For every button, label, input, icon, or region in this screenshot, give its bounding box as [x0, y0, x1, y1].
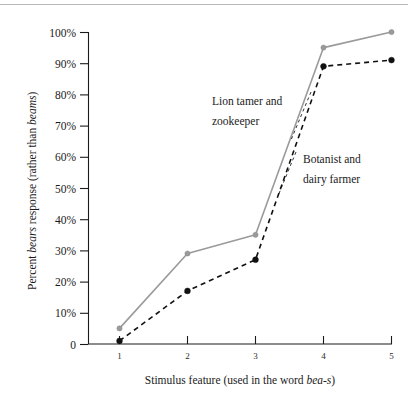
botanist-annotation-line1: Botanist and [303, 153, 361, 165]
y-axis-title: Percent bears response (rather than beam… [26, 92, 39, 291]
x-tick-label: 5 [389, 351, 394, 361]
y-tick-label: 70% [55, 120, 77, 132]
x-tick-label: 2 [185, 351, 190, 361]
data-point [117, 338, 123, 344]
y-axis-title-lead: Percent [26, 253, 38, 290]
y-axis-tick-labels: 100% 90% 80% 70% 60% 50% 40% 30% 20% 10%… [49, 27, 76, 351]
line-chart-canvas: 100% 90% 80% 70% 60% 50% 40% 30% 20% 10%… [0, 0, 408, 404]
lion-tamer-annotation: Lion tamer and zookeeper [212, 95, 283, 128]
y-tick-label: 100% [49, 27, 76, 39]
y-tick-label: 10% [55, 307, 77, 319]
y-axis-title-italic-beams: beams [26, 95, 38, 125]
y-axis-title-trail: ) [26, 92, 39, 96]
x-tick-label: 4 [321, 351, 326, 361]
data-point [389, 57, 395, 63]
y-tick-label: 0 [70, 339, 76, 351]
y-tick-label: 30% [55, 245, 77, 257]
botanist-leader-line [278, 152, 296, 196]
data-point [321, 63, 327, 69]
x-axis-tick-labels: 1 2 3 4 5 [117, 351, 394, 361]
x-axis-title: Stimulus feature (used in the word bea-s… [145, 374, 336, 387]
y-axis-title-italic-bears: bears [26, 227, 38, 253]
lion-tamer-leader-line [291, 92, 311, 140]
lion-tamer-annotation-line1: Lion tamer and [212, 95, 283, 107]
y-axis-ticks [80, 33, 89, 345]
chart-figure: 100% 90% 80% 70% 60% 50% 40% 30% 20% 10%… [0, 0, 408, 404]
data-point [321, 45, 326, 50]
y-tick-label: 90% [55, 58, 77, 70]
x-axis-title-trail: ) [331, 374, 335, 387]
y-tick-label: 60% [55, 151, 77, 163]
x-tick-label: 1 [117, 351, 122, 361]
data-point [117, 326, 122, 331]
y-tick-label: 40% [55, 214, 77, 226]
data-point [185, 251, 190, 256]
botanist-annotation-line2: dairy farmer [303, 173, 360, 186]
data-point [389, 29, 394, 34]
y-tick-label: 50% [55, 183, 77, 195]
x-tick-label: 3 [253, 351, 258, 361]
x-axis-ticks [120, 336, 392, 344]
y-axis-title-middle: response (rather than [26, 125, 39, 227]
y-tick-label: 20% [55, 276, 77, 288]
lion-tamer-annotation-line2: zookeeper [212, 115, 259, 128]
data-point [253, 257, 259, 263]
data-point [185, 288, 191, 294]
botanist-annotation: Botanist and dairy farmer [303, 153, 361, 186]
y-tick-label: 80% [55, 89, 77, 101]
data-point [253, 232, 258, 237]
x-axis-title-lead: Stimulus feature (used in the word [145, 374, 307, 387]
x-axis-title-italic: bea-s [306, 374, 331, 386]
